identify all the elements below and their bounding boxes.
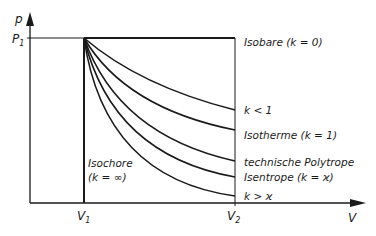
label-polytrope: technische Polytrope xyxy=(244,156,354,168)
label-isochore: Isochore xyxy=(88,157,133,169)
x-axis-arrow-icon xyxy=(350,199,366,207)
y-axis-label: p xyxy=(14,12,23,26)
x-axis xyxy=(30,199,366,207)
label-isentrope: Isentrope (k = ϰ) xyxy=(244,171,334,183)
curve-polytrope xyxy=(84,38,235,161)
v2-label: V2 xyxy=(227,209,240,225)
label-k-lt-1: k < 1 xyxy=(244,104,272,116)
label-isobare: Isobare (k = 0) xyxy=(244,36,323,48)
curve-k-lt-1 xyxy=(84,38,235,110)
v1-label: V1 xyxy=(77,209,90,225)
y-axis-arrow-icon xyxy=(26,12,34,26)
pv-diagram: p P1 V V1 V2 Isobare (k = 0) k < 1 Isoth… xyxy=(0,0,376,236)
x-axis-label: V xyxy=(348,211,357,225)
label-k-gt-kappa: k > ϰ xyxy=(244,190,273,202)
y-axis xyxy=(26,12,34,203)
label-isotherme: Isotherme (k = 1) xyxy=(244,129,337,141)
p1-label: P1 xyxy=(12,32,24,48)
label-isochore-k: (k = ∞) xyxy=(88,171,127,183)
